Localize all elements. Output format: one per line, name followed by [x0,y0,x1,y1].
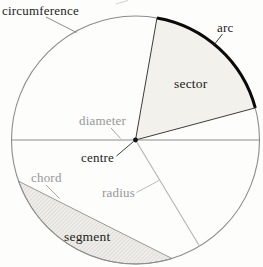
centre-pointer-line [117,142,134,157]
segment-shape [19,181,172,264]
diameter-pointer-line [111,128,121,139]
label-arc: arc [217,21,233,34]
arc-pointer-line [214,34,223,46]
radius-line [136,140,200,246]
label-circumference: circumference [2,4,79,17]
label-diameter: diameter [79,114,126,127]
radius-pointer-line [137,181,160,193]
circle-parts-diagram: circumference arc sector diameter centre… [0,0,263,267]
label-radius: radius [102,186,135,199]
centre-dot [133,138,138,143]
label-chord: chord [31,171,62,184]
diagram-canvas [0,0,263,267]
label-sector: sector [174,77,207,91]
circumference-pointer-line [46,17,77,33]
label-segment: segment [64,230,110,244]
label-centre: centre [81,151,114,164]
cropped-edge-line [116,1,128,5]
